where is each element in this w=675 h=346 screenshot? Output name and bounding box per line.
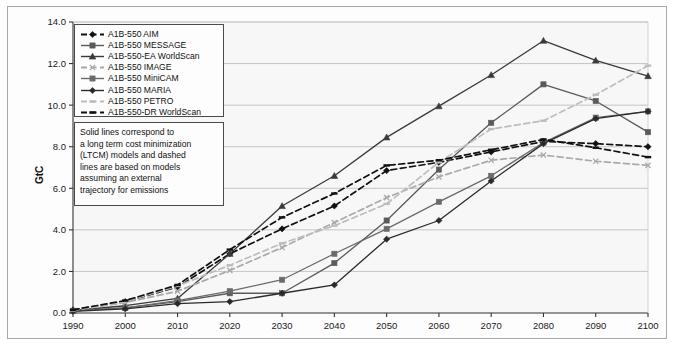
legend-label: A1B-550 IMAGE xyxy=(108,62,172,73)
legend-item[interactable]: A1B-550 MARIA xyxy=(80,84,219,95)
svg-text:2100: 2100 xyxy=(637,320,658,331)
legend-swatch-diamond-icon xyxy=(80,29,105,40)
legend-swatch-triangle-icon xyxy=(80,51,105,62)
legend-swatch-square-icon xyxy=(80,40,105,51)
legend-item[interactable]: A1B-550-EA WorldScan xyxy=(80,51,219,62)
svg-text:6.0: 6.0 xyxy=(53,183,66,194)
legend-item[interactable]: A1B-550 MiniCAM xyxy=(80,73,219,84)
legend-item[interactable]: A1B-550-DR WorldScan xyxy=(80,107,219,118)
svg-text:2080: 2080 xyxy=(533,320,554,331)
legend-label: A1B-550-DR WorldScan xyxy=(108,107,201,118)
svg-text:10.0: 10.0 xyxy=(48,100,67,111)
svg-text:8.0: 8.0 xyxy=(53,141,66,152)
legend-swatch-dash-icon xyxy=(80,107,105,118)
legend-swatch-dash-icon xyxy=(80,96,105,107)
legend-item[interactable]: A1B-550 AIM xyxy=(80,29,219,40)
svg-text:12.0: 12.0 xyxy=(48,58,67,69)
legend-label: A1B-550 MESSAGE xyxy=(108,40,186,51)
legend-swatch-x-icon xyxy=(80,62,105,73)
legend-label: A1B-550-EA WorldScan xyxy=(108,51,200,62)
svg-text:2050: 2050 xyxy=(376,320,397,331)
svg-text:14.0: 14.0 xyxy=(48,16,67,27)
svg-text:1990: 1990 xyxy=(62,320,83,331)
legend-swatch-square-icon xyxy=(80,73,105,84)
legend-item[interactable]: A1B-550 IMAGE xyxy=(80,62,219,73)
legend-swatch-diamond-icon xyxy=(80,85,105,96)
legend: A1B-550 AIMA1B-550 MESSAGEA1B-550-EA Wor… xyxy=(74,24,224,117)
svg-text:4.0: 4.0 xyxy=(53,224,66,235)
chart-screenshot: GtC 0.02.04.06.08.010.012.014.0 19902000… xyxy=(0,0,675,346)
x-axis-ticks: 1990200020102020203020402050206020702080… xyxy=(62,313,658,331)
svg-text:2090: 2090 xyxy=(585,320,606,331)
svg-text:0.0: 0.0 xyxy=(53,307,66,318)
svg-text:2010: 2010 xyxy=(167,320,188,331)
y-axis-ticks: 0.02.04.06.08.010.012.014.0 xyxy=(48,16,74,318)
svg-text:2030: 2030 xyxy=(272,320,293,331)
legend-item[interactable]: A1B-550 MESSAGE xyxy=(80,40,219,51)
svg-text:2.0: 2.0 xyxy=(53,266,66,277)
svg-text:2060: 2060 xyxy=(428,320,449,331)
legend-label: A1B-550 MARIA xyxy=(108,85,171,96)
svg-text:2020: 2020 xyxy=(219,320,240,331)
svg-text:2040: 2040 xyxy=(324,320,345,331)
svg-text:2000: 2000 xyxy=(115,320,136,331)
svg-text:2070: 2070 xyxy=(481,320,502,331)
legend-item[interactable]: A1B-550 PETRO xyxy=(80,96,219,107)
annotation-box: Solid lines correspond to a long term co… xyxy=(74,122,224,206)
annotation-text: Solid lines correspond to a long term co… xyxy=(80,127,218,197)
legend-label: A1B-550 MiniCAM xyxy=(108,73,179,84)
legend-label: A1B-550 AIM xyxy=(108,29,159,40)
legend-label: A1B-550 PETRO xyxy=(108,96,173,107)
